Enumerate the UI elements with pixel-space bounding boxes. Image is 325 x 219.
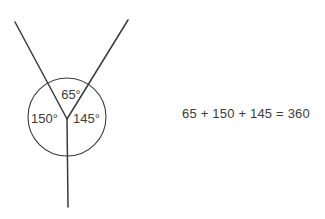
angle-label-top: 65°: [61, 87, 81, 102]
angle-label-right: 145°: [73, 111, 100, 126]
upper-left-ray: [15, 22, 67, 119]
upper-right-ray: [67, 20, 128, 119]
angle-sum-equation: 65 + 150 + 145 = 360: [182, 106, 310, 121]
angles-around-a-point-figure: 65° 150° 145° 65 + 150 + 145 = 360: [0, 0, 325, 219]
angle-label-left: 150°: [31, 111, 58, 126]
downward-ray: [67, 119, 68, 207]
